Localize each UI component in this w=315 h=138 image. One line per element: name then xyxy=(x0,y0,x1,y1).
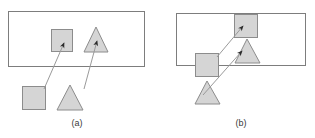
panel-a-caption: (a) xyxy=(57,118,97,128)
panel-a-region-rectangle xyxy=(9,12,145,67)
panel-a xyxy=(9,12,145,111)
panel-b xyxy=(177,14,306,105)
panel-b-triangle-outside xyxy=(195,81,220,104)
panel-b-square-straddling xyxy=(196,54,219,77)
diagram-canvas xyxy=(0,0,315,138)
panel-b-square-inside xyxy=(235,15,258,38)
figure-container: (a) (b) xyxy=(0,0,315,138)
panel-a-square-outside xyxy=(23,87,46,110)
panel-b-caption: (b) xyxy=(221,118,261,128)
panel-a-triangle-outside xyxy=(57,85,83,110)
